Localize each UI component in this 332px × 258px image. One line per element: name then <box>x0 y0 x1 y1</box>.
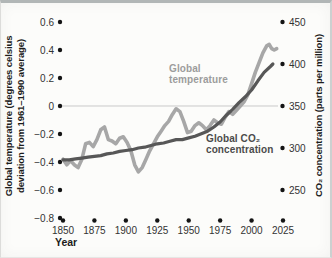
left-axis-tick-label: 0.4 <box>40 45 54 56</box>
right-axis-tick-label: 350 <box>289 101 306 112</box>
temperature-series-label-line2: temperature <box>169 74 228 85</box>
right-axis-tick-label: 300 <box>289 143 306 154</box>
right-axis-tick-dot <box>280 188 284 192</box>
co2-series-label: Global CO₂ concentration <box>206 133 273 155</box>
x-axis-tick-label: 1900 <box>115 225 138 236</box>
right-axis-tick-label: 250 <box>289 185 306 196</box>
x-axis-tick-label: 2025 <box>272 225 295 236</box>
left-axis-tick-label: 0.6 <box>40 17 54 28</box>
co2-series-label-line2: concentration <box>206 144 273 155</box>
x-axis-tick-dot <box>218 218 222 222</box>
left-axis-tick-dot <box>58 20 62 24</box>
left-axis-tick-dot <box>58 48 62 52</box>
x-axis-tick-label: 1850 <box>52 225 75 236</box>
x-axis-tick-dot <box>61 218 65 222</box>
left-axis-tick-dot <box>58 132 62 136</box>
left-axis-tick-dot <box>58 160 62 164</box>
right-axis-tick-dot <box>280 62 284 66</box>
left-axis-tick-label: −0.2 <box>34 129 54 140</box>
x-axis-tick-dot <box>92 218 96 222</box>
left-axis-title-line1: Global temperature (degrees celsius <box>3 16 15 216</box>
left-axis-title: Global temperature (degrees celsius devi… <box>3 16 27 216</box>
x-axis-tick-label: 1875 <box>83 225 106 236</box>
left-axis-tick-dot <box>58 188 62 192</box>
left-axis-tick-dot <box>58 104 62 108</box>
left-axis-tick-label: −0.4 <box>34 157 54 168</box>
right-axis-tick-label: 400 <box>289 59 306 70</box>
right-axis-tick-dot <box>280 146 284 150</box>
x-axis-tick-label: 1925 <box>146 225 169 236</box>
right-axis-title: CO₂ concentration (parts per million) <box>313 11 326 221</box>
left-axis-tick-label: 0 <box>48 101 54 112</box>
x-axis-tick-dot <box>155 218 159 222</box>
left-axis-tick-label: 0.2 <box>40 73 54 84</box>
right-axis-tick-label: 450 <box>289 17 306 28</box>
chart-plot-area: 0.60.40.20−0.2−0.4−0.6−0.845040035030025… <box>1 3 332 258</box>
x-axis-tick-label: 1950 <box>178 225 201 236</box>
temperature-series-label-line1: Global <box>169 63 228 74</box>
left-axis-tick-label: −0.6 <box>34 185 54 196</box>
x-axis-tick-dot <box>187 218 191 222</box>
x-axis-tick-label: 2000 <box>240 225 263 236</box>
x-axis-tick-dot <box>249 218 253 222</box>
x-axis-tick-dot <box>124 218 128 222</box>
climate-chart-figure: 0.60.40.20−0.2−0.4−0.6−0.845040035030025… <box>0 0 332 258</box>
left-axis-tick-label: −0.8 <box>34 213 54 224</box>
co2-series-label-line1: Global CO₂ <box>206 133 273 144</box>
x-axis-tick-dot <box>281 218 285 222</box>
x-axis-title: Year <box>55 236 77 248</box>
temperature-series-label: Global temperature <box>169 63 228 85</box>
x-axis-tick-label: 1975 <box>209 225 232 236</box>
right-axis-tick-dot <box>280 20 284 24</box>
left-axis-title-line2: deviation from 1961–1990 average) <box>15 16 27 216</box>
right-axis-tick-dot <box>280 104 284 108</box>
left-axis-tick-dot <box>58 76 62 80</box>
